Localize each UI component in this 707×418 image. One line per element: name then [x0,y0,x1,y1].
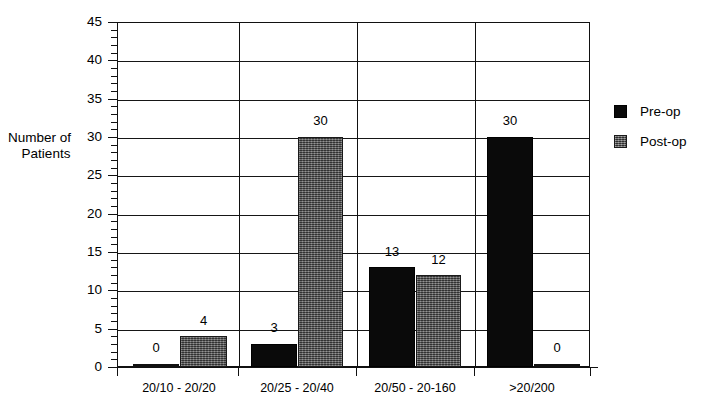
y-minor-tick [111,221,117,222]
y-axis-title-line2: Patients [8,146,84,162]
bar-chart: 45 40 35 30 25 20 15 10 5 0 Number of Pa… [0,0,707,418]
group-separator-2 [357,23,358,366]
x-axis-line [108,367,598,368]
y-minor-tick [111,183,117,184]
y-minor-tick [111,229,117,230]
y-minor-tick [111,145,117,146]
y-tick-label-35: 35 [40,92,102,106]
y-minor-tick [111,30,117,31]
legend-swatch-post-op-icon [614,135,627,148]
y-axis-line [117,22,118,375]
bar-pre-op-group-3 [369,267,415,367]
y-minor-tick [111,352,117,353]
bar-pre-op-group-2 [251,344,297,367]
y-minor-tick [111,53,117,54]
y-minor-tick [111,152,117,153]
x-tick-sep-1 [238,367,239,376]
y-minor-tick [111,344,117,345]
x-tick-label-3: >20/200 [474,381,590,395]
y-tick-10 [108,290,117,291]
y-minor-tick [111,114,117,115]
y-minor-tick [111,91,117,92]
y-minor-tick [111,168,117,169]
y-tick-35 [108,99,117,100]
y-tick-label-5: 5 [40,322,102,336]
y-minor-tick [111,83,117,84]
x-tick-left-end [117,367,118,376]
y-minor-tick [111,129,117,130]
bar-post-op-group-2 [298,137,343,367]
y-minor-tick [111,106,117,107]
y-minor-tick [111,267,117,268]
gridline-y-35 [118,100,589,101]
bar-value-pre-op-group-3: 13 [369,245,415,259]
legend-label-pre-op: Pre-op [640,102,681,121]
y-minor-tick [111,122,117,123]
y-tick-15 [108,252,117,253]
y-minor-tick [111,275,117,276]
y-minor-tick [111,321,117,322]
bar-value-post-op-group-3: 12 [416,253,461,267]
bar-post-op-group-4 [534,364,580,367]
y-minor-tick [111,283,117,284]
x-tick-label-0: 20/10 - 20/20 [120,381,238,395]
y-tick-45 [108,22,117,23]
group-separator-1 [239,23,240,366]
y-minor-tick [111,198,117,199]
y-minor-tick [111,244,117,245]
group-separator-3 [475,23,476,366]
y-tick-label-45: 45 [40,15,102,29]
legend-label-post-op: Post-op [640,132,687,151]
y-tick-25 [108,175,117,176]
y-minor-tick [111,237,117,238]
bar-value-pre-op-group-4: 30 [487,114,533,128]
y-tick-label-0: 0 [40,360,102,374]
y-minor-tick [111,298,117,299]
y-tick-label-20: 20 [40,207,102,221]
y-minor-tick [111,359,117,360]
y-minor-tick [111,206,117,207]
y-minor-tick [111,336,117,337]
x-tick-sep-3 [474,367,475,376]
legend-item-post-op: Post-op [614,132,704,162]
y-axis-title-line1: Number of [8,130,66,146]
y-tick-label-15: 15 [40,245,102,259]
y-tick-5 [108,329,117,330]
x-tick-right-end [590,367,591,376]
y-minor-tick [111,260,117,261]
y-minor-tick [111,76,117,77]
y-minor-tick [111,37,117,38]
y-tick-label-40: 40 [40,53,102,67]
y-minor-tick [111,45,117,46]
bar-pre-op-group-1 [133,364,179,367]
x-tick-sep-2 [356,367,357,376]
bar-value-pre-op-group-1: 0 [133,341,179,355]
y-tick-label-25: 25 [40,168,102,182]
y-minor-tick [111,313,117,314]
bar-value-pre-op-group-2: 3 [251,321,297,335]
y-minor-tick [111,160,117,161]
gridline-y-40 [118,61,589,62]
bar-value-post-op-group-1: 4 [180,314,227,328]
y-minor-tick [111,68,117,69]
y-tick-40 [108,60,117,61]
y-tick-label-10: 10 [40,283,102,297]
legend-item-pre-op: Pre-op [614,102,704,132]
y-minor-tick [111,306,117,307]
bar-value-post-op-group-2: 30 [298,114,343,128]
y-minor-tick [111,191,117,192]
bar-post-op-group-3 [416,275,461,367]
legend: Pre-op Post-op [614,102,704,162]
x-tick-label-1: 20/25 - 20/40 [238,381,356,395]
x-tick-label-2: 20/50 - 20-160 [356,381,474,395]
y-tick-30 [108,137,117,138]
bar-post-op-group-1 [180,336,227,367]
y-tick-20 [108,214,117,215]
bar-pre-op-group-4 [487,137,533,367]
legend-swatch-pre-op-icon [614,105,627,118]
bar-value-post-op-group-4: 0 [534,341,580,355]
